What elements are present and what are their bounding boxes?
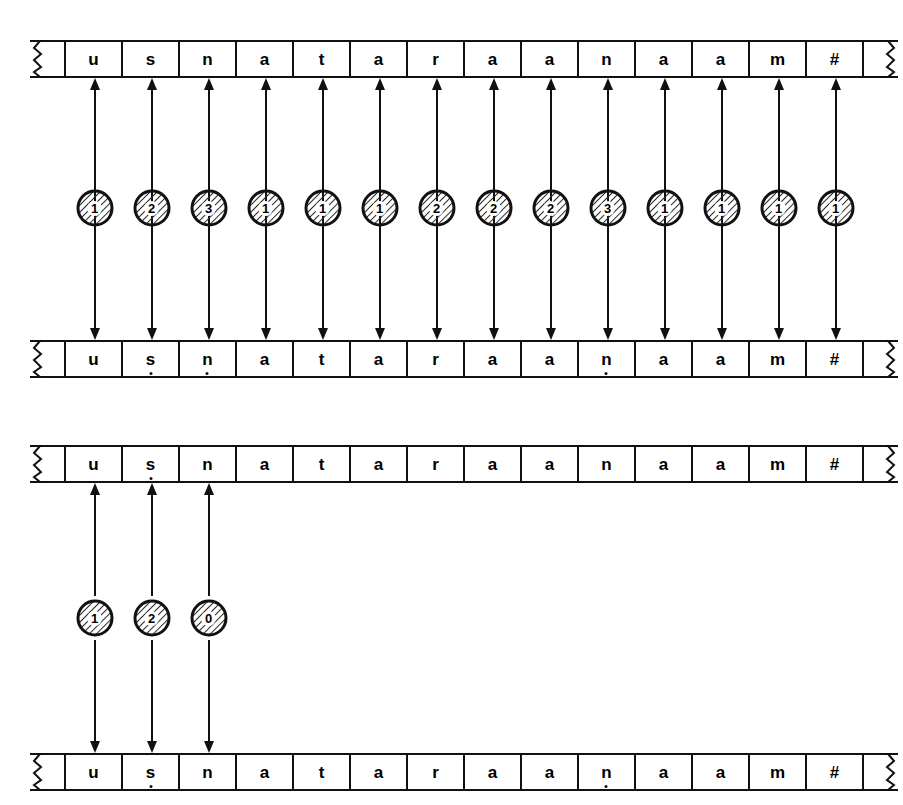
tape-cell: r [408,755,465,789]
tape-cell: a [351,447,408,481]
state-node[interactable]: 1 [303,188,343,228]
tape-cell: s [123,447,180,481]
connector-arrow-up [94,494,96,596]
tape-cell: s [123,42,180,76]
tape-cell-glyph: # [830,351,839,368]
state-node-label: 2 [429,201,444,216]
tape-cell-glyph: s [146,764,155,781]
state-node-label: 1 [657,201,672,216]
tape-cell: a [465,342,522,376]
state-node[interactable]: 1 [702,188,742,228]
tape-cell: u [66,755,123,789]
tape-cell-glyph: s [146,456,155,473]
connector-arrow-down [322,230,324,329]
tape-cell-glyph: m [770,51,785,68]
state-node-label: 1 [771,201,786,216]
tape-cell-glyph: a [659,51,668,68]
tape-cell-glyph: a [716,351,725,368]
tape-cell-group: usnataraanaam# [64,445,864,483]
tape-cell-glyph: a [260,351,269,368]
connector-arrow-down [550,230,552,329]
state-node[interactable]: 1 [759,188,799,228]
state-node[interactable]: 1 [360,188,400,228]
tape-cell-group: usnataraanaam# [64,340,864,378]
tape-cell: # [807,342,864,376]
tape-cell-group: usnataraanaam# [64,753,864,791]
tape-cell-glyph: n [601,51,611,68]
tape-cell: a [693,342,750,376]
state-node-label: 1 [828,201,843,216]
tape-cell-glyph: t [319,51,325,68]
tape-cell-glyph: a [374,764,383,781]
tape-cell-glyph: # [830,456,839,473]
state-node[interactable]: 3 [189,188,229,228]
tape-cell: n [180,342,237,376]
state-node[interactable]: 2 [417,188,457,228]
tape-cell-glyph: a [488,456,497,473]
tape-cell: r [408,342,465,376]
tape-torn-edge-right [864,445,898,483]
state-node[interactable]: 1 [246,188,286,228]
state-node[interactable]: 2 [132,598,172,638]
state-node-label: 2 [486,201,501,216]
tape-cell-glyph: a [659,764,668,781]
tape-cell: u [66,447,123,481]
connector-arrow-down [379,230,381,329]
tape-cell-glyph: n [202,764,212,781]
connector-arrow-down [664,230,666,329]
state-node[interactable]: 2 [132,188,172,228]
state-node-label: 1 [372,201,387,216]
tape-cell: # [807,755,864,789]
state-node[interactable]: 1 [75,598,115,638]
tape-cell-glyph: r [432,51,439,68]
tape-cell: a [237,755,294,789]
connector-arrow-up [208,494,210,596]
tape-cell: t [294,447,351,481]
tape-cell-glyph: a [545,351,554,368]
tape-cell-glyph: a [488,51,497,68]
tape-cell: a [636,342,693,376]
connector-arrow-down [778,230,780,329]
tape-cell: a [522,447,579,481]
tape-cell: n [180,755,237,789]
state-node[interactable]: 3 [588,188,628,228]
tape-cell-glyph: u [88,456,98,473]
tape-cell: n [579,342,636,376]
lower-tape-bottom: usnataraanaam# [30,753,898,791]
tape-cell: r [408,447,465,481]
state-node-label: 1 [315,201,330,216]
tape-cell-glyph: n [202,51,212,68]
tape-cell-glyph: a [260,764,269,781]
tape-cell: a [522,342,579,376]
tape-cell: r [408,42,465,76]
tape-torn-edge-left [30,340,64,378]
state-node-label: 2 [144,611,159,626]
state-node[interactable]: 2 [531,188,571,228]
tape-cell: t [294,42,351,76]
figure-canvas: usnataraanaam# usnataraanaam# usnataraa [0,0,903,805]
connector-arrow-down [721,230,723,329]
tape-cell: # [807,42,864,76]
state-node[interactable]: 2 [474,188,514,228]
state-node[interactable]: 1 [75,188,115,228]
upper-tape-top: usnataraanaam# [30,40,898,78]
tape-cell-glyph: t [319,456,325,473]
tape-cell: a [237,342,294,376]
tape-cell: n [180,447,237,481]
tape-cell: m [750,42,807,76]
tape-cell-group: usnataraanaam# [64,40,864,78]
tape-cell-glyph: m [770,456,785,473]
tape-cell: a [636,42,693,76]
tape-cell: a [693,42,750,76]
tape-cell: a [351,342,408,376]
connector-arrow-down [94,230,96,329]
state-node[interactable]: 0 [189,598,229,638]
tape-cell: t [294,342,351,376]
state-node-label: 1 [87,201,102,216]
tape-cell-glyph: r [432,764,439,781]
tape-cell-glyph: a [488,351,497,368]
tape-cell-glyph: t [319,351,325,368]
state-node[interactable]: 1 [816,188,856,228]
state-node[interactable]: 1 [645,188,685,228]
tape-cell: a [465,447,522,481]
